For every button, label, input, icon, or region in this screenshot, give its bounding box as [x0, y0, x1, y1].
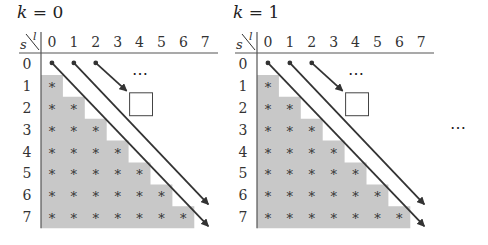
grid-diagram: ****************************012345670123… [17, 0, 247, 245]
cell-marker: * [265, 102, 272, 117]
column-label: 6 [395, 34, 404, 50]
diagonal-arrow [312, 63, 343, 91]
cell-marker: * [71, 189, 78, 204]
target-cell [346, 93, 369, 116]
cell-marker: * [287, 167, 294, 182]
cell-marker: * [287, 102, 294, 117]
cell-marker: * [374, 189, 381, 204]
column-label: 3 [329, 34, 338, 50]
cell-marker: * [71, 167, 78, 182]
cell-marker: * [309, 146, 316, 161]
cell-marker: * [287, 189, 294, 204]
row-label: 5 [239, 165, 248, 181]
row-label: 2 [239, 100, 248, 116]
cell-marker: * [49, 189, 56, 204]
cell-marker: * [352, 167, 359, 182]
row-label: 7 [23, 209, 32, 225]
row-label: 3 [23, 122, 32, 138]
row-label: 4 [23, 144, 32, 160]
cell-marker: * [352, 211, 359, 226]
cell-marker: * [49, 102, 56, 117]
cell-marker: * [93, 167, 100, 182]
cell-marker: * [49, 146, 56, 161]
cell-marker: * [352, 189, 359, 204]
grid-diagram: ****************************012345670123… [233, 0, 463, 245]
ellipsis: ⋯ [132, 64, 149, 83]
cell-marker: * [136, 167, 143, 182]
row-label: 0 [23, 56, 32, 72]
cell-marker: * [49, 80, 56, 95]
cell-marker: * [330, 167, 337, 182]
corner-row-label: s [20, 37, 27, 52]
cell-marker: * [287, 211, 294, 226]
cell-marker: * [330, 146, 337, 161]
cell-marker: * [93, 189, 100, 204]
column-label: 3 [113, 34, 122, 50]
cell-marker: * [396, 211, 403, 226]
row-label: 6 [239, 187, 248, 203]
cell-marker: * [330, 189, 337, 204]
cell-marker: * [374, 211, 381, 226]
column-label: 1 [69, 34, 78, 50]
ellipsis: ⋯ [348, 64, 365, 83]
cell-marker: * [265, 167, 272, 182]
corner-row-label: s [236, 37, 243, 52]
cell-marker: * [158, 189, 165, 204]
cell-marker: * [71, 146, 78, 161]
cell-marker: * [287, 124, 294, 139]
cell-marker: * [309, 124, 316, 139]
cell-marker: * [309, 167, 316, 182]
cell-marker: * [265, 146, 272, 161]
cell-marker: * [309, 211, 316, 226]
cell-marker: * [180, 211, 187, 226]
row-label: 5 [23, 165, 32, 181]
column-label: 0 [263, 34, 272, 50]
column-label: 7 [417, 34, 426, 50]
cell-marker: * [265, 80, 272, 95]
row-label: 1 [239, 78, 248, 94]
panel-k1: k = 1 ****************************012345… [233, 0, 463, 245]
column-label: 1 [285, 34, 294, 50]
cell-marker: * [136, 189, 143, 204]
cell-marker: * [93, 146, 100, 161]
row-label: 0 [239, 56, 248, 72]
row-label: 2 [23, 100, 32, 116]
cell-marker: * [71, 211, 78, 226]
column-label: 2 [307, 34, 316, 50]
trailing-ellipsis: ⋯ [450, 118, 467, 137]
row-label: 4 [239, 144, 248, 160]
cell-marker: * [114, 167, 121, 182]
column-label: 2 [91, 34, 100, 50]
cell-marker: * [114, 211, 121, 226]
corner-col-label: l [249, 30, 253, 43]
cell-marker: * [49, 167, 56, 182]
cell-marker: * [330, 211, 337, 226]
cell-marker: * [93, 211, 100, 226]
row-label: 1 [23, 78, 32, 94]
column-label: 0 [47, 34, 56, 50]
column-label: 5 [373, 34, 382, 50]
row-label: 6 [23, 187, 32, 203]
cell-marker: * [265, 189, 272, 204]
row-label: 7 [239, 209, 248, 225]
cell-marker: * [114, 146, 121, 161]
cell-marker: * [49, 211, 56, 226]
cell-marker: * [158, 211, 165, 226]
column-label: 7 [201, 34, 210, 50]
cell-marker: * [287, 146, 294, 161]
column-label: 6 [179, 34, 188, 50]
cell-marker: * [136, 211, 143, 226]
panel-k0: k = 0 ****************************012345… [17, 0, 247, 245]
cell-marker: * [265, 124, 272, 139]
target-cell [130, 93, 153, 116]
cell-marker: * [71, 124, 78, 139]
column-label: 4 [135, 34, 144, 50]
column-label: 4 [351, 34, 360, 50]
cell-marker: * [49, 124, 56, 139]
cell-marker: * [71, 102, 78, 117]
column-label: 5 [157, 34, 166, 50]
row-label: 3 [239, 122, 248, 138]
corner-col-label: l [33, 30, 37, 43]
cell-marker: * [93, 124, 100, 139]
cell-marker: * [265, 211, 272, 226]
